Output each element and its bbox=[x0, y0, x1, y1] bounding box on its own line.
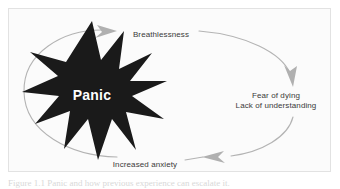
node-label-fear-line-2: Lack of understanding bbox=[227, 101, 325, 111]
node-label-fear: Fear of dying Lack of understanding bbox=[227, 91, 325, 111]
node-label-fear-line-1: Fear of dying bbox=[227, 91, 325, 101]
arrow-to-fear-icon bbox=[284, 65, 297, 87]
figure-root: Breathlessness Fear of dying Lack of und… bbox=[0, 0, 340, 189]
loop-segment-bottom bbox=[185, 157, 203, 160]
figure-caption: Figure 1.1 Panic and how previous experi… bbox=[8, 178, 332, 189]
loop-segment-bottom-right bbox=[231, 117, 293, 156]
arrow-to-anxiety-icon bbox=[202, 151, 225, 163]
loop-segment-top-right bbox=[199, 31, 290, 73]
arrow-to-breathlessness-icon bbox=[95, 25, 117, 38]
node-label-breathlessness: Breathlessness bbox=[121, 30, 201, 40]
diagram-frame: Breathlessness Fear of dying Lack of und… bbox=[8, 8, 331, 172]
node-label-increased-anxiety: Increased anxiety bbox=[105, 160, 185, 170]
panic-node-label: Panic bbox=[61, 88, 123, 102]
